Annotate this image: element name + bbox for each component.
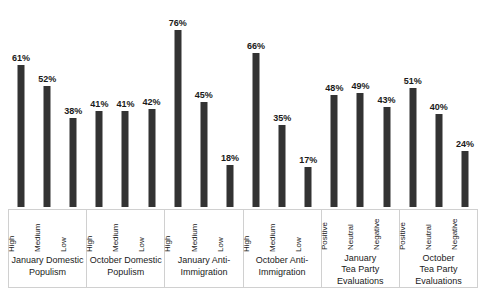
- tick-label: Medium: [200, 235, 212, 253]
- bar-group: 48%49%43%: [321, 0, 399, 207]
- group-title-line: Immigration: [180, 267, 227, 279]
- bar-slot: 17%: [295, 0, 321, 207]
- plot-area: 61%52%38%41%41%42%76%45%18%66%35%17%48%4…: [0, 0, 491, 207]
- group-title-line: January: [344, 253, 376, 265]
- bar-value-label: 51%: [404, 76, 422, 87]
- group-title: October DomesticPopulism: [87, 254, 164, 287]
- tick-label-row: HighMediumLow: [244, 210, 321, 254]
- bar-slot: 61%: [8, 0, 34, 207]
- bar-group: 61%52%38%: [8, 0, 86, 207]
- tick-label: Negative: [382, 233, 394, 251]
- group-title-line: Tea Party: [419, 264, 457, 276]
- bar-value-label: 18%: [221, 153, 239, 164]
- bar-slot: 66%: [243, 0, 269, 207]
- bar[interactable]: [383, 107, 390, 207]
- bar-value-label: 43%: [378, 95, 396, 106]
- tick-label: Medium: [121, 235, 133, 253]
- bar-group: 41%41%42%: [86, 0, 164, 207]
- bar-slot: 40%: [426, 0, 452, 207]
- bar-value-label: 48%: [325, 83, 343, 94]
- bar-group: 66%35%17%: [243, 0, 321, 207]
- group-title: January Anti-Immigration: [165, 254, 242, 287]
- group-title-line: Immigration: [259, 267, 306, 279]
- tick-label: Low: [69, 235, 81, 253]
- bar-value-label: 52%: [38, 74, 56, 85]
- category-group: HighMediumLowJanuary Anti-Immigration: [165, 210, 243, 287]
- bar-slot: 49%: [347, 0, 373, 207]
- bar[interactable]: [44, 86, 51, 207]
- bar[interactable]: [122, 111, 129, 207]
- bar-slot: 52%: [34, 0, 60, 207]
- bar[interactable]: [18, 65, 25, 207]
- group-title-line: January Domestic: [12, 255, 84, 267]
- bar[interactable]: [253, 53, 260, 207]
- bar-value-label: 76%: [169, 18, 187, 29]
- group-title: JanuaryTea PartyEvaluations: [322, 252, 399, 288]
- bar-slot: 76%: [165, 0, 191, 207]
- bar-value-label: 61%: [12, 53, 30, 64]
- bar[interactable]: [461, 151, 468, 207]
- bar-value-label: 24%: [456, 139, 474, 150]
- bar-slot: 45%: [191, 0, 217, 207]
- bar-slot: 42%: [139, 0, 165, 207]
- bar[interactable]: [200, 102, 207, 207]
- tick-label: Positive: [408, 233, 420, 251]
- tick-label-row: PositiveNeutralNegative: [322, 210, 399, 252]
- group-title: October Anti-Immigration: [244, 254, 321, 287]
- bar[interactable]: [435, 114, 442, 207]
- bar[interactable]: [279, 125, 286, 207]
- group-title: January DomesticPopulism: [9, 254, 86, 287]
- category-group: HighMediumLowOctober Anti-Immigration: [244, 210, 322, 287]
- bar-slot: 51%: [400, 0, 426, 207]
- bar-group: 51%40%24%: [400, 0, 478, 207]
- bar-value-label: 41%: [90, 99, 108, 110]
- bar[interactable]: [70, 118, 77, 207]
- tick-label: High: [95, 235, 107, 253]
- bar-value-label: 17%: [299, 155, 317, 166]
- category-group: HighMediumLowJanuary DomesticPopulism: [9, 210, 87, 287]
- bar[interactable]: [174, 30, 181, 207]
- bar-slot: 38%: [60, 0, 86, 207]
- bar[interactable]: [226, 165, 233, 207]
- tick-label: High: [252, 235, 264, 253]
- group-title-line: Populism: [107, 267, 144, 279]
- group-title-line: January Anti-: [178, 255, 231, 267]
- bar[interactable]: [357, 93, 364, 207]
- group-title-line: Tea Party: [341, 264, 379, 276]
- bar-value-label: 40%: [430, 102, 448, 113]
- bar-value-label: 35%: [273, 113, 291, 124]
- tick-label-row: HighMediumLow: [9, 210, 86, 254]
- category-label-table: HighMediumLowJanuary DomesticPopulismHig…: [8, 209, 478, 288]
- tick-label: Neutral: [434, 233, 446, 251]
- bar[interactable]: [148, 109, 155, 207]
- bar-value-label: 66%: [247, 41, 265, 52]
- tick-label: Negative: [460, 233, 472, 251]
- tick-label: Low: [304, 235, 316, 253]
- tick-label-row: HighMediumLow: [165, 210, 242, 254]
- group-title-line: Populism: [29, 267, 66, 279]
- group-title-line: October Anti-: [256, 255, 309, 267]
- group-title-line: Evaluations: [415, 276, 462, 288]
- bar-chart: 61%52%38%41%41%42%76%45%18%66%35%17%48%4…: [0, 0, 491, 298]
- bar-slot: 43%: [374, 0, 400, 207]
- bar[interactable]: [331, 95, 338, 207]
- tick-label-row: PositiveNeutralNegative: [400, 210, 477, 252]
- bar-slot: 18%: [217, 0, 243, 207]
- bar-value-label: 41%: [116, 99, 134, 110]
- group-title-line: October: [422, 253, 454, 265]
- group-title-line: Evaluations: [337, 276, 384, 288]
- tick-label: High: [173, 235, 185, 253]
- tick-label: High: [17, 235, 29, 253]
- tick-label-row: HighMediumLow: [87, 210, 164, 254]
- tick-label: Positive: [330, 233, 342, 251]
- bar-slot: 48%: [321, 0, 347, 207]
- bar-value-label: 45%: [195, 90, 213, 101]
- bar[interactable]: [305, 167, 312, 207]
- bar[interactable]: [409, 88, 416, 207]
- bar-slot: 41%: [112, 0, 138, 207]
- bar-value-label: 38%: [64, 106, 82, 117]
- bar[interactable]: [96, 111, 103, 207]
- bar-value-label: 42%: [143, 97, 161, 108]
- bar-group: 76%45%18%: [165, 0, 243, 207]
- group-title: OctoberTea PartyEvaluations: [400, 252, 477, 288]
